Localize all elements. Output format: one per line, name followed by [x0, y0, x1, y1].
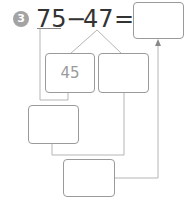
split-box-left-value: 45 — [46, 54, 94, 92]
step-box-2[interactable] — [63, 159, 115, 197]
problem-number-badge: 3 — [13, 11, 29, 27]
split-box-right[interactable] — [98, 53, 149, 93]
step-box-1[interactable] — [28, 105, 79, 144]
equals-sign: = — [114, 6, 134, 32]
minuend: 75 — [36, 6, 67, 32]
subtrahend: 47 — [83, 6, 114, 32]
answer-box[interactable] — [133, 2, 184, 39]
split-box-left[interactable]: 45 — [45, 53, 95, 93]
